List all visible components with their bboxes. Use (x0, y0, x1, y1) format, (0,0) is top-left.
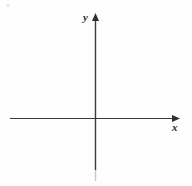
y-axis-arrowhead-icon (92, 13, 99, 21)
coordinate-axes-figure: y x (0, 0, 192, 186)
axes-drawing (0, 0, 192, 186)
y-axis-label: y (83, 12, 88, 23)
x-axis-label: x (172, 122, 178, 133)
